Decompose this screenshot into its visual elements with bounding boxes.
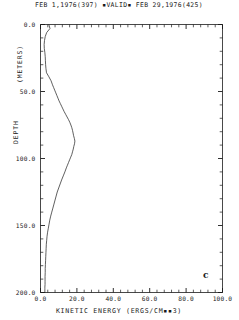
- x-tick-label: 80.0: [166, 295, 206, 302]
- panel-label: c: [203, 270, 208, 280]
- plot-frame: [41, 25, 223, 293]
- x-axis-label: KINETIC ENERGY (ERGS/CM▪▪3): [0, 307, 238, 315]
- x-tick-label: 0.0: [21, 295, 61, 302]
- x-tick-label: 100.0: [203, 295, 239, 302]
- y-tick-label: 150.0: [0, 222, 36, 229]
- data-curve: [44, 25, 75, 293]
- axis-ticks: [41, 25, 223, 293]
- y-axis-label: DEPTH: [12, 84, 20, 180]
- kinetic-energy-depth-profile-figure: FEB 1,1976(397) ▪VALID▪ FEB 29,1976(425)…: [0, 0, 238, 320]
- x-tick-label: 40.0: [93, 295, 133, 302]
- x-tick-label: 60.0: [130, 295, 170, 302]
- x-tick-label: 20.0: [57, 295, 97, 302]
